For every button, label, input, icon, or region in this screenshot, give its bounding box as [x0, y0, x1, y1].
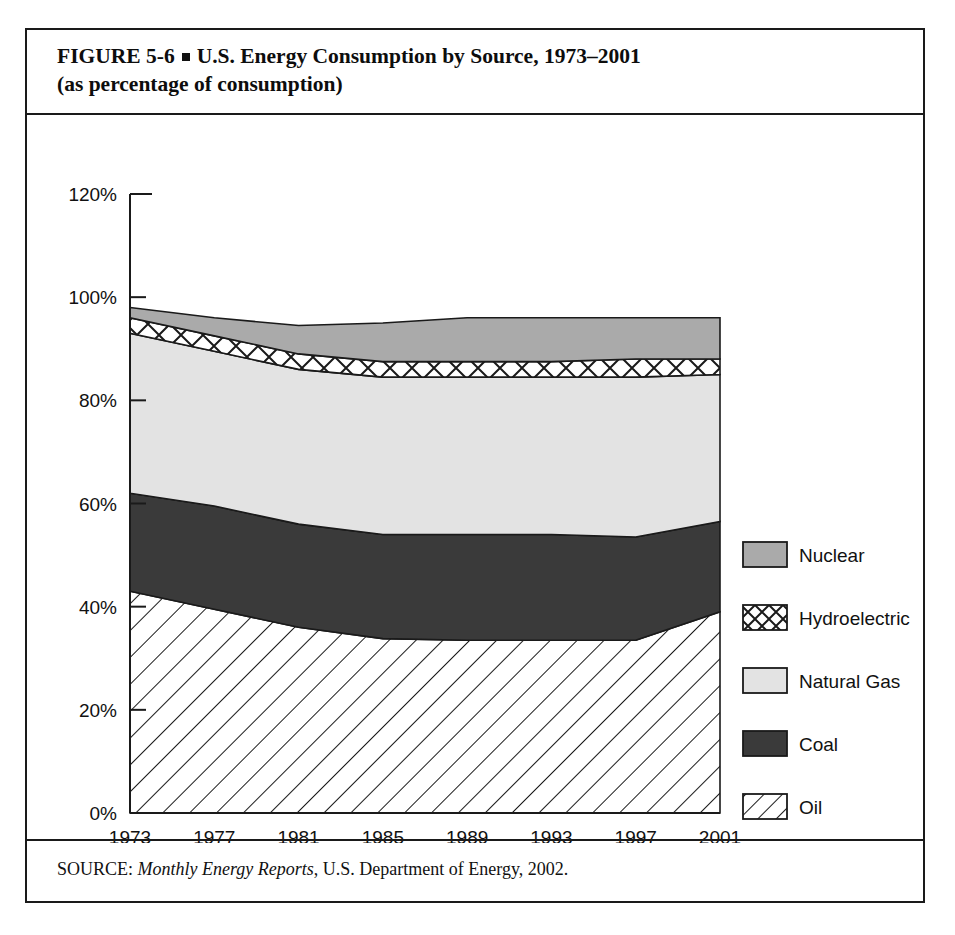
legend-label-hydroelectric: Hydroelectric — [799, 608, 910, 629]
figure-number: FIGURE 5-6 — [57, 44, 175, 68]
square-bullet-icon — [182, 53, 190, 61]
coal-swatch — [743, 731, 787, 756]
natural-gas-swatch — [743, 668, 787, 693]
figure-title-line1: U.S. Energy Consumption by Source, 1973–… — [197, 44, 641, 68]
y-tick-label-0: 0% — [90, 803, 118, 824]
figure-source-block: SOURCE: Monthly Energy Reports, U.S. Dep… — [27, 839, 923, 901]
chart-area: 0%20%40%60%80%100%120% 19731977198119851… — [27, 115, 923, 839]
figure-source: SOURCE: Monthly Energy Reports, U.S. Dep… — [57, 859, 903, 880]
source-prefix: SOURCE: — [57, 859, 133, 879]
chart-legend: NuclearHydroelectricNatural GasCoalOil — [743, 542, 910, 819]
figure-title-line2: (as percentage of consumption) — [57, 72, 343, 96]
y-tick-label-40: 40% — [79, 597, 117, 618]
y-tick-label-100: 100% — [68, 287, 117, 308]
legend-label-coal: Coal — [799, 734, 838, 755]
y-tick-label-20: 20% — [79, 700, 117, 721]
y-tick-label-60: 60% — [79, 494, 117, 515]
y-tick-label-80: 80% — [79, 390, 117, 411]
nuclear-swatch — [743, 542, 787, 567]
oil-swatch — [743, 794, 787, 819]
stacked-area-chart: 0%20%40%60%80%100%120% 19731977198119851… — [27, 115, 923, 843]
figure-frame: FIGURE 5-6U.S. Energy Consumption by Sou… — [25, 28, 925, 903]
figure-title-block: FIGURE 5-6U.S. Energy Consumption by Sou… — [27, 30, 923, 115]
legend-label-natural-gas: Natural Gas — [799, 671, 900, 692]
y-tick-label-120: 120% — [68, 184, 117, 205]
figure-title: FIGURE 5-6U.S. Energy Consumption by Sou… — [57, 42, 903, 98]
legend-label-nuclear: Nuclear — [799, 545, 865, 566]
legend-label-oil: Oil — [799, 797, 822, 818]
chart-series-areas — [130, 307, 720, 813]
source-publication: Monthly Energy Reports — [138, 859, 314, 879]
hydroelectric-swatch — [743, 605, 787, 630]
source-rest: , U.S. Department of Energy, 2002. — [314, 859, 568, 879]
